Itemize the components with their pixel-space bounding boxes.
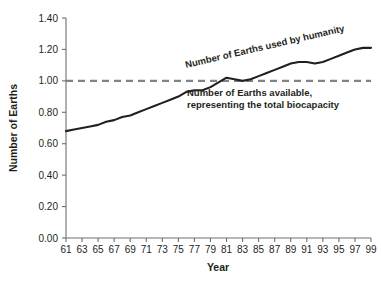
x-tick-label: 83 xyxy=(237,244,249,255)
y-tick-label: 0.80 xyxy=(39,107,59,118)
x-tick-label: 63 xyxy=(76,244,88,255)
x-tick-label: 65 xyxy=(93,244,105,255)
annotation-biocapacity-line-2: representing the total biocapacity xyxy=(187,99,340,110)
x-tick-label: 69 xyxy=(125,244,137,255)
earths-used-line-chart: 0.000.200.400.600.801.001.201.40 Number … xyxy=(0,0,381,283)
x-tick-label: 73 xyxy=(157,244,169,255)
x-tick-label: 71 xyxy=(141,244,153,255)
y-tick-label: 0.40 xyxy=(39,170,59,181)
x-tick-label: 67 xyxy=(109,244,121,255)
x-tick-label: 99 xyxy=(365,244,377,255)
chart-container: 0.000.200.400.600.801.001.201.40 Number … xyxy=(0,0,381,283)
y-tick-label: 1.00 xyxy=(39,75,59,86)
y-axis-title: Number of Earths xyxy=(7,84,19,172)
x-tick-label: 85 xyxy=(253,244,265,255)
y-tick-label: 0.00 xyxy=(39,233,59,244)
annotation-biocapacity-line-1: Number of Earths available, xyxy=(187,87,312,98)
x-axis-title: Year xyxy=(207,261,229,273)
y-tick-label: 1.40 xyxy=(39,13,59,24)
x-tick-label: 97 xyxy=(349,244,361,255)
x-tick-label: 93 xyxy=(317,244,329,255)
x-tick-label: 75 xyxy=(173,244,185,255)
x-tick-label: 95 xyxy=(333,244,345,255)
y-tick-label: 1.20 xyxy=(39,44,59,55)
x-tick-label: 79 xyxy=(205,244,217,255)
x-tick-label: 87 xyxy=(269,244,281,255)
y-tick-label: 0.60 xyxy=(39,138,59,149)
x-tick-label: 61 xyxy=(60,244,72,255)
x-tick-label: 89 xyxy=(285,244,297,255)
y-tick-label: 0.20 xyxy=(39,201,59,212)
x-tick-label: 77 xyxy=(189,244,201,255)
x-tick-label: 91 xyxy=(301,244,313,255)
x-tick-label: 81 xyxy=(221,244,233,255)
